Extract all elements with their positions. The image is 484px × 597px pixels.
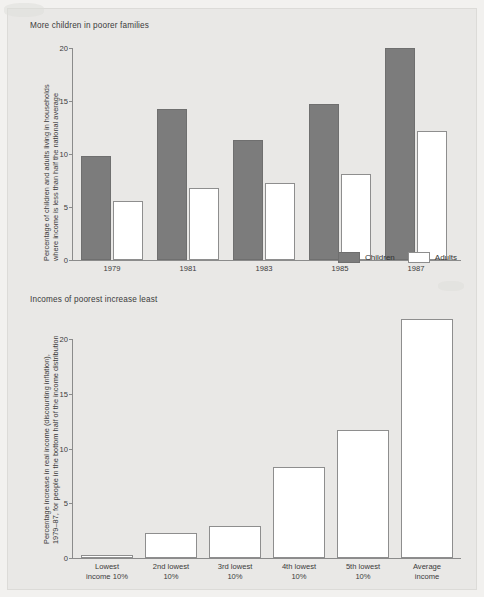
bar-group-container-top bbox=[73, 48, 461, 260]
x-tick-top-1981: 1981 bbox=[157, 264, 219, 274]
y-tick-top-0: 0 bbox=[64, 256, 73, 265]
y-axis-label-top-line1: Percentage of children and adults living… bbox=[42, 84, 51, 261]
x-tick-bottom-5th: 5th lowest 10% bbox=[331, 562, 395, 581]
y-tick-top-5: 5 bbox=[64, 203, 73, 212]
chart-incomes-of-poorest: Incomes of poorest increase least Percen… bbox=[8, 294, 476, 589]
y-tick-bottom-20: 20 bbox=[60, 335, 73, 344]
y-tick-label: 20 bbox=[60, 335, 68, 344]
bar-adults-1979 bbox=[113, 201, 143, 260]
y-tick-label: 15 bbox=[60, 97, 68, 106]
y-axis-label-bottom-line2: 1979–87, for people in the bottom half o… bbox=[51, 335, 60, 544]
bar-children-1983 bbox=[233, 140, 263, 260]
legend-label-children: Children bbox=[365, 253, 395, 262]
legend-item-children: Children bbox=[338, 252, 395, 263]
x-tick-bottom-3rd: 3rd lowest 10% bbox=[203, 562, 267, 581]
legend-item-adults: Adults bbox=[408, 252, 457, 263]
bar-group-container-bottom bbox=[73, 339, 461, 558]
y-axis-label-top: Percentage of children and adults living… bbox=[42, 84, 60, 261]
y-tick-bottom-0: 0 bbox=[64, 554, 73, 563]
legend-swatch-children bbox=[338, 252, 360, 263]
x-tick-bottom-lowest: Lowest income 10% bbox=[75, 562, 139, 581]
chart-children-in-poorer-families: More children in poorer families Percent… bbox=[8, 9, 476, 294]
y-tick-label: 10 bbox=[60, 150, 68, 159]
plot-area-bottom: 20 15 10 5 0 Lowest income 10% 2nd lowes… bbox=[72, 339, 461, 559]
y-tick-top-10: 10 bbox=[60, 150, 73, 159]
y-tick-top-15: 15 bbox=[60, 97, 73, 106]
y-tick-bottom-5: 5 bbox=[64, 499, 73, 508]
page-background: More children in poorer families Percent… bbox=[0, 0, 484, 597]
y-tick-label: 15 bbox=[60, 390, 68, 399]
bar-average-income bbox=[401, 319, 453, 558]
x-tick-top-1985: 1985 bbox=[309, 264, 371, 274]
figure-panel: More children in poorer families Percent… bbox=[8, 9, 476, 589]
x-tick-top-1979: 1979 bbox=[81, 264, 143, 274]
y-tick-label: 5 bbox=[64, 203, 68, 212]
y-axis-label-bottom-line1: Percentage increase in real income (disc… bbox=[42, 335, 51, 544]
legend-label-adults: Adults bbox=[435, 253, 457, 262]
y-tick-top-20: 20 bbox=[60, 44, 73, 53]
x-tick-top-1987: 1987 bbox=[385, 264, 447, 274]
y-tick-label: 20 bbox=[60, 44, 68, 53]
bar-2nd-lowest-10 bbox=[145, 533, 197, 558]
y-axis-label-top-line2: where income is less than half the natio… bbox=[51, 84, 60, 261]
x-tick-top-1983: 1983 bbox=[233, 264, 295, 274]
bar-adults-1981 bbox=[189, 188, 219, 260]
bar-adults-1983 bbox=[265, 183, 295, 260]
bar-children-1985 bbox=[309, 104, 339, 260]
legend-top: Children Adults bbox=[338, 252, 457, 263]
chart-title-bottom: Incomes of poorest increase least bbox=[30, 295, 157, 304]
y-tick-bottom-10: 10 bbox=[60, 445, 73, 454]
y-tick-label: 5 bbox=[64, 499, 68, 508]
x-tick-bottom-2nd: 2nd lowest 10% bbox=[139, 562, 203, 581]
x-tick-bottom-average: Average income bbox=[395, 562, 459, 581]
y-tick-label: 10 bbox=[60, 445, 68, 454]
legend-swatch-adults bbox=[408, 252, 430, 263]
y-axis-label-bottom: Percentage increase in real income (disc… bbox=[42, 335, 60, 544]
y-tick-bottom-15: 15 bbox=[60, 390, 73, 399]
chart-title-top: More children in poorer families bbox=[30, 21, 149, 30]
bar-children-1981 bbox=[157, 109, 187, 260]
bar-lowest-income-10 bbox=[81, 555, 133, 558]
bar-4th-lowest-10 bbox=[273, 467, 325, 558]
bar-adults-1987 bbox=[417, 131, 447, 260]
bar-3rd-lowest-10 bbox=[209, 526, 261, 558]
bar-children-1979 bbox=[81, 156, 111, 260]
y-tick-label: 0 bbox=[64, 554, 68, 563]
bar-adults-1985 bbox=[341, 174, 371, 260]
bar-5th-lowest-10 bbox=[337, 430, 389, 558]
y-tick-label: 0 bbox=[64, 256, 68, 265]
bar-children-1987 bbox=[385, 48, 415, 260]
plot-area-top: 20 15 10 5 0 bbox=[72, 48, 461, 261]
x-tick-bottom-4th: 4th lowest 10% bbox=[267, 562, 331, 581]
